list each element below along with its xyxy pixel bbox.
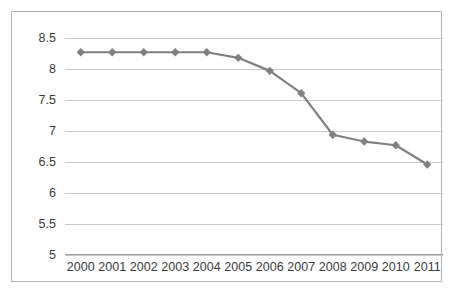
plot-area <box>65 38 443 255</box>
y-axis-labels: 8.587.576.565.55 <box>12 38 60 255</box>
x-tick-label: 2006 <box>256 261 284 274</box>
data-point-marker <box>77 48 85 56</box>
chart-container: 8.587.576.565.55 20002001200220032004200… <box>11 11 442 282</box>
y-tick-label: 7.5 <box>16 94 56 107</box>
y-tick-label: 8 <box>16 63 56 76</box>
y-tick-label: 7 <box>16 125 56 138</box>
x-tick-label: 2002 <box>130 261 158 274</box>
data-point-marker <box>203 48 211 56</box>
line-series <box>65 38 443 255</box>
x-tick-label: 2001 <box>98 261 126 274</box>
data-point-marker <box>234 54 242 62</box>
x-tick-label: 2010 <box>382 261 410 274</box>
x-tick-label: 2009 <box>350 261 378 274</box>
x-tick-label: 2003 <box>161 261 189 274</box>
x-tick-label: 2008 <box>319 261 347 274</box>
series-line <box>81 52 428 164</box>
x-tick-label: 2005 <box>224 261 252 274</box>
data-point-marker <box>140 48 148 56</box>
data-point-marker <box>360 137 368 145</box>
x-axis-labels: 2000200120022003200420052006200720082009… <box>65 261 443 285</box>
data-point-marker <box>171 48 179 56</box>
x-tick-label: 2004 <box>193 261 221 274</box>
data-point-marker <box>108 48 116 56</box>
y-tick-label: 6 <box>16 187 56 200</box>
y-tick-label: 6.5 <box>16 156 56 169</box>
x-tick-label: 2011 <box>414 261 441 274</box>
gridline <box>65 255 443 256</box>
x-tick-label: 2007 <box>287 261 315 274</box>
x-tick-label: 2000 <box>67 261 95 274</box>
y-tick-label: 8.5 <box>16 32 56 45</box>
y-tick-label: 5.5 <box>16 218 56 231</box>
y-tick-label: 5 <box>16 249 56 262</box>
